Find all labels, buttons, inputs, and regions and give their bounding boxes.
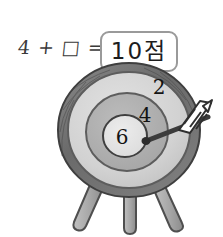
ring-score-4: 4 xyxy=(139,103,152,127)
archery-target-illustration: 2 4 6 xyxy=(48,62,213,237)
worksheet-page: 4 + □ = 10점 xyxy=(0,0,223,237)
target-svg: 2 4 6 xyxy=(48,62,213,237)
equation-expression: 4 + □ = xyxy=(17,36,106,58)
equation-row: 4 + □ = 10점 xyxy=(0,14,223,62)
ring-score-2: 2 xyxy=(153,75,166,99)
answer-value: 10점 xyxy=(111,40,167,63)
ring-score-6: 6 xyxy=(116,125,129,149)
arrow-impact-point xyxy=(142,137,151,145)
